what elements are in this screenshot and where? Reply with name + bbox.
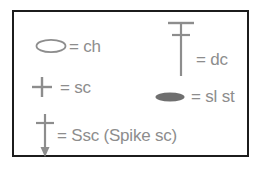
legend-entry-slip-stitch: = sl st [154,88,234,105]
legend-entry-chain: = ch [34,36,101,56]
spike-single-crochet-symbol [34,112,56,158]
chain-stitch-symbol [34,36,68,56]
legend-entry-spike-single-crochet: = Ssc (Spike sc) [34,112,177,158]
double-crochet-symbol [166,16,196,78]
legend-entry-single-crochet: = sc [29,74,91,100]
slip-stitch-symbol [154,89,186,105]
legend-entry-double-crochet: = dc [166,16,228,78]
legend-label-double-crochet: = dc [196,51,228,68]
legend-label-slip-stitch: = sl st [191,88,234,105]
legend-label-single-crochet: = sc [60,79,91,96]
legend-label-chain: = ch [69,38,101,55]
stitch-legend-panel: = ch = sc = Ssc (Spike sc) = dc = sl st [12,10,249,157]
single-crochet-symbol [29,74,55,100]
legend-label-spike-single-crochet: = Ssc (Spike sc) [57,127,177,144]
